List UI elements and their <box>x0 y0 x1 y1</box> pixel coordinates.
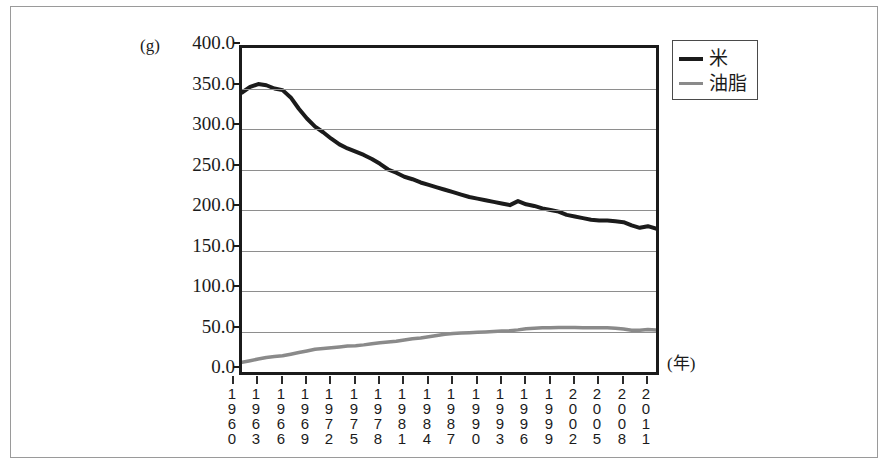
y-axis-tick-mark <box>233 285 240 287</box>
y-axis-tick-label: 350.0 <box>139 74 235 93</box>
x-axis-tick-mark <box>573 376 575 384</box>
y-axis-tick-mark <box>233 83 240 85</box>
legend-label-oil: 油脂 <box>709 74 747 93</box>
x-axis-tick-label: 1990 <box>467 386 485 446</box>
y-axis-tick-mark <box>233 42 240 44</box>
x-axis-tick-mark <box>622 376 624 384</box>
chart-figure: (g) 400.0350.0300.0250.0200.0150.0100.05… <box>0 0 894 471</box>
chart-legend: 米 油脂 <box>672 40 758 100</box>
y-axis-tick-label: 0.0 <box>139 357 235 376</box>
legend-item-rice: 米 <box>679 46 757 71</box>
y-axis-tick-mark <box>233 245 240 247</box>
x-axis-tick-label: 1987 <box>442 386 460 446</box>
y-axis-tick-mark <box>233 326 240 328</box>
x-axis-tick-label: 2011 <box>637 386 655 446</box>
y-axis-tick-mark <box>233 123 240 125</box>
x-axis-tick-mark <box>354 376 356 384</box>
x-axis-tick-label: 2008 <box>613 386 631 446</box>
gridline <box>242 89 656 90</box>
rice-line-swatch <box>679 57 703 61</box>
x-axis-tick-label: 1984 <box>418 386 436 446</box>
x-axis-tick-mark <box>597 376 599 384</box>
x-axis-tick-mark <box>451 376 453 384</box>
y-axis-tick-label: 100.0 <box>139 276 235 295</box>
legend-item-oil: 油脂 <box>679 71 757 96</box>
gridline <box>242 170 656 171</box>
y-axis-tick-label: 50.0 <box>139 317 235 336</box>
x-axis-tick-mark <box>549 376 551 384</box>
x-axis-tick-label: 1975 <box>345 386 363 446</box>
x-axis-tick-mark <box>476 376 478 384</box>
plot-inner <box>242 48 656 372</box>
oil-line-swatch <box>679 82 703 85</box>
y-axis-tick-mark <box>233 204 240 206</box>
x-axis-tick-mark <box>402 376 404 384</box>
x-axis-tick-label: 1966 <box>272 386 290 446</box>
x-axis-tick-mark <box>305 376 307 384</box>
x-axis-tick-label: 1981 <box>393 386 411 446</box>
x-axis-tick-mark <box>329 376 331 384</box>
x-axis-unit-label: (年) <box>667 355 695 372</box>
x-axis-tick-mark <box>232 376 234 384</box>
gridline <box>242 251 656 252</box>
gridline <box>242 210 656 211</box>
gridline <box>242 291 656 292</box>
y-axis-tick-label: 150.0 <box>139 236 235 255</box>
y-axis-tick-label: 200.0 <box>139 195 235 214</box>
x-axis-tick-mark <box>646 376 648 384</box>
x-axis-tick-label: 1969 <box>296 386 314 446</box>
plot-area <box>239 45 659 375</box>
gridline <box>242 332 656 333</box>
y-axis-tick-mark <box>233 366 240 368</box>
x-axis-tick-label: 1993 <box>491 386 509 446</box>
rice-series-line <box>242 84 656 229</box>
figure-border: (g) 400.0350.0300.0250.0200.0150.0100.05… <box>10 6 878 458</box>
x-axis-tick-mark <box>524 376 526 384</box>
x-axis-tick-label: 1972 <box>320 386 338 446</box>
x-axis-tick-mark <box>378 376 380 384</box>
x-axis-tick-label: 1996 <box>515 386 533 446</box>
x-axis-tick-mark <box>427 376 429 384</box>
x-axis-tick-mark <box>281 376 283 384</box>
x-axis-tick-label: 1978 <box>369 386 387 446</box>
x-axis-tick-label: 1960 <box>223 386 241 446</box>
x-axis-tick-label: 2005 <box>588 386 606 446</box>
y-axis-tick-label: 300.0 <box>139 114 235 133</box>
x-axis-tick-label: 1963 <box>247 386 265 446</box>
y-axis-tick-labels: 400.0350.0300.0250.0200.0150.0100.050.00… <box>135 7 235 471</box>
x-axis-tick-label: 2002 <box>564 386 582 446</box>
gridline <box>242 129 656 130</box>
y-axis-tick-label: 400.0 <box>139 33 235 52</box>
x-axis-tick-mark <box>500 376 502 384</box>
legend-label-rice: 米 <box>709 49 728 68</box>
y-axis-tick-label: 250.0 <box>139 155 235 174</box>
y-axis-tick-mark <box>233 164 240 166</box>
x-axis-tick-label: 1999 <box>540 386 558 446</box>
x-axis-tick-mark <box>256 376 258 384</box>
